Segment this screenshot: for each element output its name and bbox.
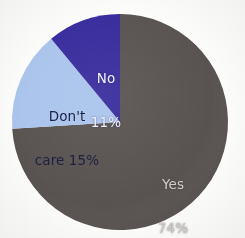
pie-shading-overlay — [12, 14, 228, 230]
pie-chart: Yes 74% No 11% Don't care 15% — [0, 0, 245, 238]
pie-chart-canvas — [0, 0, 245, 238]
